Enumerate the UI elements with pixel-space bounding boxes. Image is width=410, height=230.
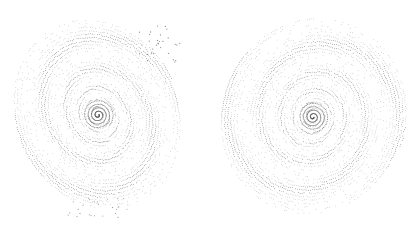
left-spiral-galaxy [13,20,180,218]
spiral-figure [0,0,410,230]
figure [0,0,410,230]
right-spiral-galaxy [221,18,407,214]
